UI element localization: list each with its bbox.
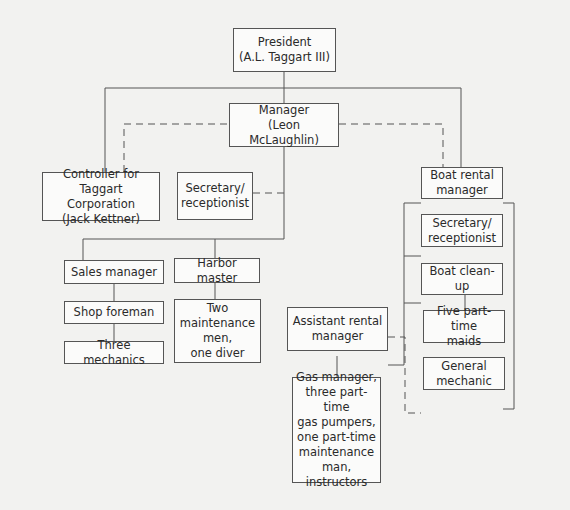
manager-box: Manager (Leon McLaughlin) <box>229 103 339 147</box>
secretary-rental-box: Secretary/ receptionist <box>421 214 503 247</box>
sales-manager-box: Sales manager <box>64 260 164 284</box>
shop-foreman-box: Shop foreman <box>64 301 164 324</box>
boat-cleanup-box: Boat clean-up <box>421 263 503 295</box>
boat-rental-manager-box: Boat rental manager <box>421 167 503 199</box>
controller-box: Controller for Taggart Corporation (Jack… <box>42 172 160 221</box>
harbor-master-box: Harbor master <box>174 258 260 283</box>
maintenance-box: Two maintenance men, one diver <box>174 299 261 363</box>
connector-lines <box>0 0 570 510</box>
three-mechanics-box: Three mechanics <box>64 341 164 364</box>
general-mechanic-box: General mechanic <box>423 357 505 390</box>
gas-staff-box: Gas manager, three part-time gas pumpers… <box>292 377 381 483</box>
president-box: President (A.L. Taggart III) <box>233 28 336 72</box>
assistant-rental-manager-box: Assistant rental manager <box>287 307 388 351</box>
secretary-box: Secretary/ receptionist <box>177 172 253 220</box>
maids-box: Five part-time maids <box>423 310 505 343</box>
